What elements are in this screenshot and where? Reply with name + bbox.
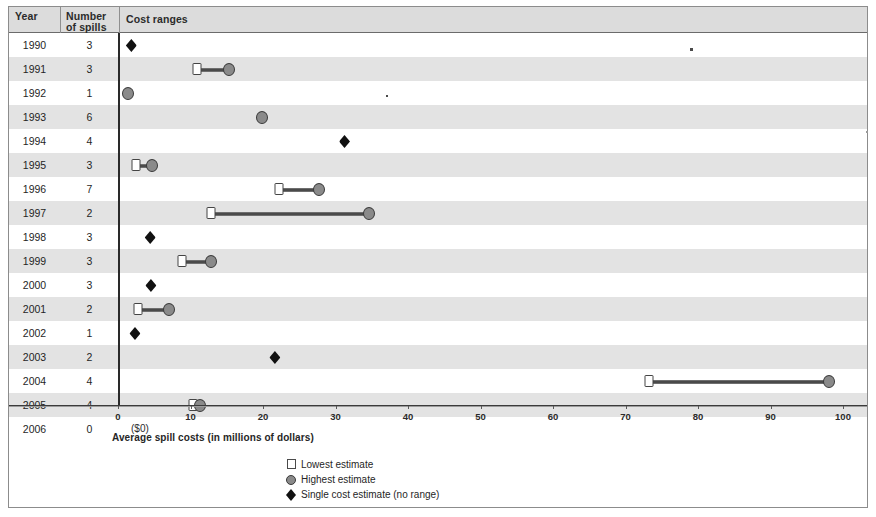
cell-cost-range [119, 369, 867, 393]
scan-artifact [386, 95, 388, 97]
highest-estimate-marker [256, 111, 268, 124]
table-row: 19967 [9, 177, 867, 201]
table-row: 19953 [9, 153, 867, 177]
single-estimate-marker [145, 279, 156, 292]
table-row: 20021 [9, 321, 867, 345]
table-row: 20012 [9, 297, 867, 321]
table-row: 20003 [9, 273, 867, 297]
single-estimate-marker [126, 39, 137, 52]
cell-number-of-spills: 3 [60, 153, 119, 177]
x-axis-tick [553, 406, 554, 409]
cell-year: 1997 [9, 201, 60, 225]
x-axis-tick [626, 406, 627, 409]
table-row: 19993 [9, 249, 867, 273]
cell-year: 1996 [9, 177, 60, 201]
screenshot-root: Year Number of spills Cost ranges 199031… [0, 0, 876, 517]
single-estimate-marker [339, 135, 350, 148]
lowest-estimate-marker [207, 207, 216, 219]
x-axis-tick-label: 90 [765, 411, 776, 422]
cell-number-of-spills: 7 [60, 177, 119, 201]
cell-number-of-spills: 1 [60, 321, 119, 345]
x-axis-tick [191, 406, 192, 409]
highest-estimate-marker [146, 159, 158, 172]
table-row: 19913 [9, 57, 867, 81]
cell-number-of-spills: 1 [60, 81, 119, 105]
x-axis-tick [336, 406, 337, 409]
cell-cost-range [119, 345, 867, 369]
legend: Lowest estimateHighest estimateSingle co… [286, 458, 606, 503]
cell-number-of-spills: 3 [60, 57, 119, 81]
column-header-cost-ranges: Cost ranges [119, 7, 867, 33]
cell-year: 2002 [9, 321, 60, 345]
table-row: 19972 [9, 201, 867, 225]
header-line-2: of spills [66, 22, 107, 33]
scan-artifact [690, 48, 693, 51]
cell-year: 1999 [9, 249, 60, 273]
x-axis-tick [843, 406, 844, 409]
legend-item: Lowest estimate [286, 458, 606, 471]
cell-number-of-spills: 3 [60, 249, 119, 273]
open-square-icon [287, 459, 296, 469]
cell-year: 1992 [9, 81, 60, 105]
x-axis-tick-label: 30 [330, 411, 341, 422]
x-axis-label: Average spill costs (in millions of doll… [112, 432, 314, 443]
cell-cost-range [119, 273, 867, 297]
cell-number-of-spills: 3 [60, 273, 119, 297]
cell-number-of-spills: 3 [60, 225, 119, 249]
table-row: 19944 [9, 129, 867, 153]
highest-estimate-marker [223, 63, 235, 76]
column-header-cost-ranges-label: Cost ranges [126, 14, 188, 25]
cell-number-of-spills: 3 [60, 33, 119, 57]
table-row: 19921 [9, 81, 867, 105]
x-axis-tick-label: 40 [403, 411, 414, 422]
lowest-estimate-marker [645, 375, 654, 387]
cell-cost-range [119, 321, 867, 345]
column-header-number-of-spills: Number of spills [60, 7, 119, 33]
lowest-estimate-marker [131, 159, 140, 171]
cell-cost-range [119, 177, 867, 201]
highest-estimate-marker [313, 183, 325, 196]
circle-icon [286, 475, 296, 485]
cell-cost-range [119, 153, 867, 177]
scan-artifact [866, 131, 868, 133]
cell-cost-range [119, 33, 867, 57]
x-axis-tick [118, 406, 119, 409]
x-axis-tick-label: 80 [693, 411, 704, 422]
highest-estimate-marker [363, 207, 375, 220]
single-estimate-marker [129, 327, 140, 340]
cell-year: 1995 [9, 153, 60, 177]
x-axis-tick [481, 406, 482, 409]
x-axis-tick-label: 0 [115, 411, 120, 422]
cell-year: 2003 [9, 345, 60, 369]
cell-number-of-spills: 2 [60, 297, 119, 321]
cell-year: 1991 [9, 57, 60, 81]
data-table: Year Number of spills Cost ranges 199031… [9, 7, 867, 405]
cell-cost-range [119, 225, 867, 249]
column-header-number-of-spills-label: Number of spills [66, 11, 107, 33]
column-header-year: Year [9, 7, 60, 33]
cell-cost-range [119, 297, 867, 321]
x-axis-tick-label: 10 [185, 411, 196, 422]
cell-number-of-spills: 6 [60, 105, 119, 129]
filled-diamond-icon [286, 489, 296, 501]
x-axis-tick-label: 60 [548, 411, 559, 422]
legend-item: Single cost estimate (no range) [286, 488, 606, 501]
legend-item: Highest estimate [286, 473, 606, 486]
cell-number-of-spills: 2 [60, 345, 119, 369]
cell-number-of-spills: 4 [60, 369, 119, 393]
x-axis-tick [771, 406, 772, 409]
table-row: 20044 [9, 369, 867, 393]
x-axis-tick [408, 406, 409, 409]
cell-year: 1993 [9, 105, 60, 129]
highest-estimate-marker [163, 303, 175, 316]
cell-cost-range [119, 129, 867, 153]
x-axis-tick-label: 100 [835, 411, 851, 422]
cell-cost-range [119, 105, 867, 129]
x-axis-tick-label: 50 [475, 411, 486, 422]
cell-year: 2006 [9, 417, 60, 441]
cell-number-of-spills: 4 [60, 129, 119, 153]
table-row: 19903 [9, 33, 867, 57]
single-estimate-marker [145, 231, 156, 244]
y-axis-line [118, 33, 120, 405]
x-axis-line-shadow [9, 406, 867, 407]
